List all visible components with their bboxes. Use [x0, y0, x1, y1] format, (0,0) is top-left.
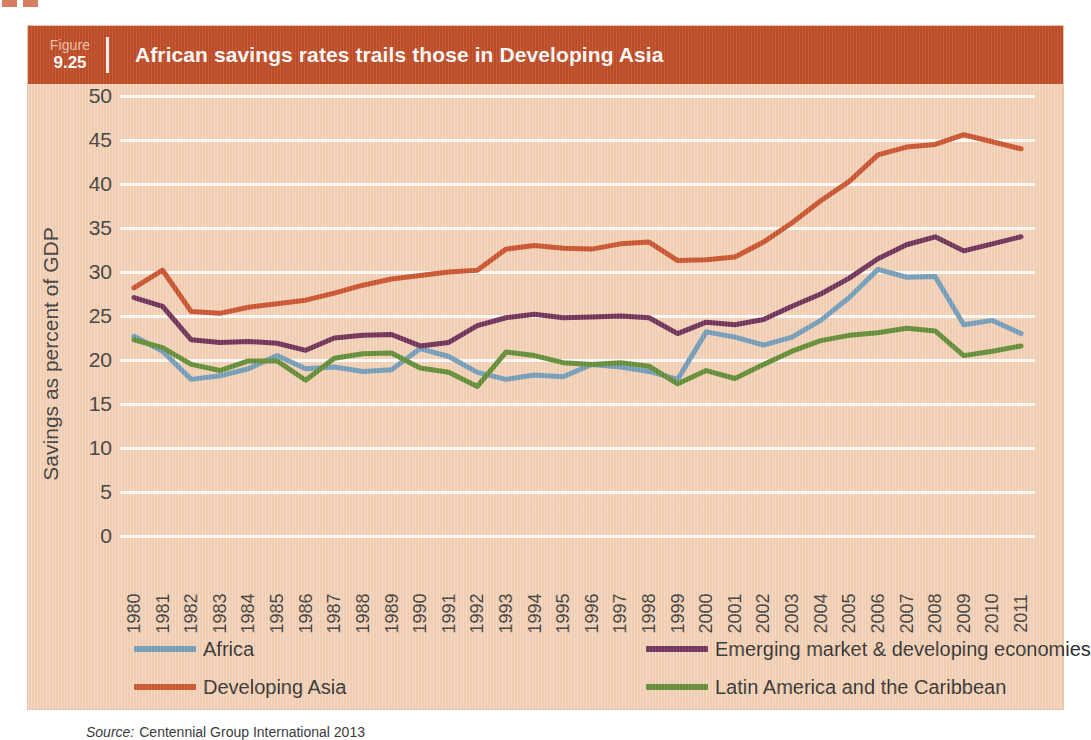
x-tick-label-text: 1993: [495, 593, 516, 633]
x-tick-label: 1999: [667, 550, 689, 624]
y-tick-label: 20: [89, 348, 112, 372]
x-tick-label: 2002: [752, 550, 774, 624]
y-axis-title-text: Savings as percent of GDP: [39, 227, 63, 480]
series-line: [134, 135, 1021, 314]
x-tick-label-text: 1980: [124, 593, 145, 633]
y-axis-tick-labels: 05101520253035404550: [66, 84, 112, 544]
x-tick-label: 2008: [924, 550, 946, 624]
x-tick-label: 2011: [1010, 550, 1032, 624]
legend-column-right: Emerging market & developing economiesLa…: [646, 630, 1091, 706]
x-tick-label-text: 1984: [238, 593, 259, 633]
x-tick-label: 1994: [524, 550, 546, 624]
legend-item[interactable]: Developing Asia: [134, 668, 346, 706]
x-tick-label: 2007: [896, 550, 918, 624]
y-tick-label: 40: [89, 172, 112, 196]
x-tick-label: 2009: [953, 550, 975, 624]
legend-label: Emerging market & developing economies: [715, 638, 1091, 661]
x-tick-label: 1996: [581, 550, 603, 624]
source-text: Centennial Group International 2013: [139, 724, 365, 740]
x-tick-label: 1980: [123, 550, 145, 624]
x-tick-label: 2000: [695, 550, 717, 624]
plot-region: Savings as percent of GDP 05101520253035…: [28, 84, 1063, 709]
x-tick-label: 1984: [237, 550, 259, 624]
x-tick-label-text: 1992: [467, 593, 488, 633]
x-tick-label-text: 2005: [839, 593, 860, 633]
x-tick-label-text: 1991: [438, 593, 459, 633]
series-lines: [120, 84, 1035, 544]
figure-label: Figure: [50, 38, 90, 53]
x-tick-label: 1998: [638, 550, 660, 624]
y-tick-label: 5: [100, 480, 112, 504]
x-tick-label: 1989: [381, 550, 403, 624]
series-line: [134, 328, 1021, 386]
x-tick-label: 2005: [838, 550, 860, 624]
x-tick-label-text: 1983: [209, 593, 230, 633]
figure-number-block: Figure 9.25: [28, 26, 106, 84]
x-tick-label-text: 1981: [152, 593, 173, 633]
x-tick-label-text: 1988: [352, 593, 373, 633]
x-tick-label-text: 1986: [295, 593, 316, 633]
x-tick-label: 2006: [867, 550, 889, 624]
x-tick-label-text: 2011: [1011, 594, 1032, 633]
y-tick-label: 35: [89, 216, 112, 240]
legend-label: Latin America and the Caribbean: [715, 676, 1006, 699]
x-tick-label-text: 1990: [410, 593, 431, 633]
header-divider: [106, 37, 109, 73]
x-tick-label: 1983: [209, 550, 231, 624]
x-tick-label-text: 1985: [267, 593, 288, 633]
x-tick-label-text: 2007: [896, 593, 917, 633]
y-tick-label: 10: [89, 436, 112, 460]
x-tick-label-text: 1995: [553, 593, 574, 633]
legend-label: Developing Asia: [203, 676, 346, 699]
page-scan-artifact: [2, 0, 38, 7]
y-tick-label: 25: [89, 304, 112, 328]
y-tick-label: 50: [89, 84, 112, 108]
legend-swatch: [646, 684, 708, 690]
x-tick-label-text: 1999: [667, 593, 688, 633]
figure-card: Figure 9.25 African savings rates trails…: [28, 26, 1063, 709]
x-tick-label: 1985: [266, 550, 288, 624]
x-tick-label: 1993: [495, 550, 517, 624]
x-tick-label-text: 1997: [610, 593, 631, 633]
x-tick-label-text: 2003: [782, 593, 803, 633]
x-tick-label: 2004: [810, 550, 832, 624]
x-tick-label-text: 2002: [753, 593, 774, 633]
y-tick-label: 15: [89, 392, 112, 416]
chart-legend: AfricaDeveloping Asia Emerging market & …: [120, 630, 1043, 708]
x-tick-label: 1981: [152, 550, 174, 624]
source-prefix: Source:: [86, 724, 134, 740]
x-tick-label: 1992: [466, 550, 488, 624]
x-tick-label: 2001: [724, 550, 746, 624]
legend-item[interactable]: Emerging market & developing economies: [646, 630, 1091, 668]
legend-swatch: [134, 684, 196, 690]
x-tick-label: 2010: [981, 550, 1003, 624]
legend-column-left: AfricaDeveloping Asia: [134, 630, 346, 706]
y-tick-label: 45: [89, 128, 112, 152]
x-tick-label-text: 2006: [867, 593, 888, 633]
figure-header: Figure 9.25 African savings rates trails…: [28, 26, 1063, 84]
x-axis-tick-labels: 1980198119821983198419851986198719881989…: [120, 546, 1035, 624]
x-tick-label: 1991: [438, 550, 460, 624]
x-tick-label: 2003: [781, 550, 803, 624]
x-tick-label-text: 2004: [810, 593, 831, 633]
source-line: Source:Centennial Group International 20…: [86, 724, 365, 740]
legend-item[interactable]: Africa: [134, 630, 346, 668]
legend-swatch: [646, 646, 708, 652]
legend-label: Africa: [203, 638, 254, 661]
y-tick-label: 30: [89, 260, 112, 284]
x-tick-label-text: 1987: [324, 593, 345, 633]
x-tick-label: 1987: [323, 550, 345, 624]
x-tick-label: 1995: [552, 550, 574, 624]
legend-item[interactable]: Latin America and the Caribbean: [646, 668, 1091, 706]
figure-number: 9.25: [53, 54, 86, 72]
y-tick-label: 0: [100, 524, 112, 548]
x-tick-label: 1988: [352, 550, 374, 624]
x-tick-label: 1997: [609, 550, 631, 624]
x-tick-label: 1986: [295, 550, 317, 624]
chart-plot-area: [120, 84, 1035, 544]
x-tick-label-text: 1982: [181, 593, 202, 633]
x-tick-label-text: 2010: [982, 593, 1003, 633]
x-tick-label-text: 1989: [381, 593, 402, 633]
x-tick-label-text: 2000: [696, 593, 717, 633]
y-axis-title: Savings as percent of GDP: [36, 204, 66, 504]
